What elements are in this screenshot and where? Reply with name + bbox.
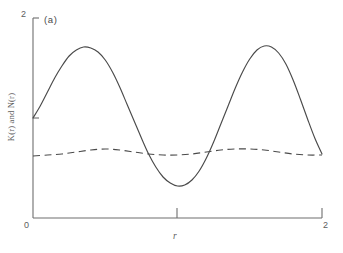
chart-canvas [0,0,343,253]
x-axis-max-tick-label: 2 [323,220,328,230]
y-axis-max-tick-label: 2 [21,9,26,19]
figure-panel: 2 0 2 (a) r K(r) and N(r) [0,0,343,253]
curve-k-of-r [33,46,322,186]
x-axis-title: r [173,231,177,241]
panel-label: (a) [44,14,57,25]
axes-group [33,18,322,218]
y-axis-title: K(r) and N(r) [6,77,16,157]
series-group [33,46,322,186]
x-axis-min-tick-label: 0 [24,220,29,230]
curve-n-of-r [33,149,322,156]
